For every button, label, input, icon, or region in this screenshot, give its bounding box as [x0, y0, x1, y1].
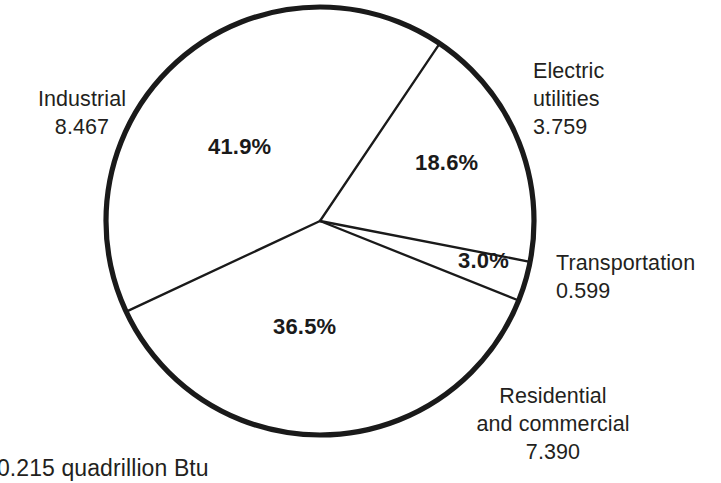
- slice-percent-electric-utilities: 18.6%: [415, 150, 478, 176]
- slice-percent-industrial: 41.9%: [208, 134, 271, 160]
- slice-label-electric-utilities-value: 3.759: [533, 114, 683, 142]
- slice-label-residential-commercial: Residential and commercial 7.390: [437, 383, 669, 467]
- slice-label-transportation-value: 0.599: [556, 278, 721, 306]
- slice-label-industrial-value: 8.467: [4, 114, 160, 142]
- chart-total-caption: 20.215 quadrillion Btu: [0, 455, 209, 482]
- slice-label-electric-utilities: Electric utilities 3.759: [533, 58, 683, 142]
- slice-label-electric-utilities-line2: utilities: [533, 86, 683, 114]
- slice-percent-residential-commercial: 36.5%: [273, 314, 336, 340]
- slice-label-residential-commercial-line1: Residential: [437, 383, 669, 411]
- slice-label-industrial: Industrial 8.467: [4, 86, 160, 142]
- slice-label-transportation-name: Transportation: [556, 250, 721, 278]
- slice-label-electric-utilities-line1: Electric: [533, 58, 683, 86]
- slice-label-residential-commercial-value: 7.390: [437, 439, 669, 467]
- slice-label-transportation: Transportation 0.599: [556, 250, 721, 306]
- slice-percent-transportation: 3.0%: [458, 248, 509, 274]
- slice-label-industrial-name: Industrial: [4, 86, 160, 114]
- pie-chart: Industrial 8.467 Electric utilities 3.75…: [0, 0, 721, 483]
- slice-label-residential-commercial-line2: and commercial: [437, 411, 669, 439]
